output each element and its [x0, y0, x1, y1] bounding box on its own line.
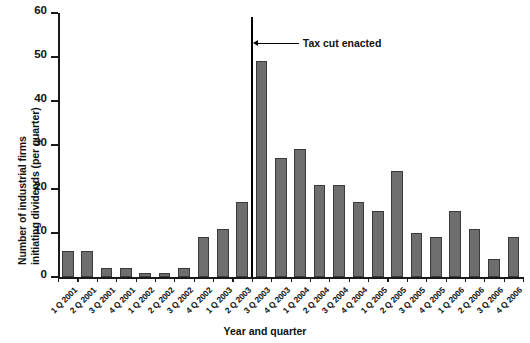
x-axis-tick	[116, 277, 117, 282]
x-axis-tick	[77, 277, 78, 282]
y-axis-tick-label-10: 10	[34, 224, 47, 236]
bar	[488, 259, 500, 277]
y-axis-line	[58, 13, 60, 277]
x-axis-tick	[174, 277, 175, 282]
bar	[449, 211, 461, 277]
tax-cut-annotation-label: Tax cut enacted	[303, 37, 382, 49]
bar	[353, 202, 365, 277]
y-axis-title: Number of industrial firms initiating di…	[0, 0, 34, 290]
bar	[198, 237, 210, 277]
bar	[81, 251, 93, 277]
bar	[469, 229, 481, 277]
x-axis-tick	[136, 277, 137, 282]
x-axis-tick	[291, 277, 292, 282]
x-axis-tick	[368, 277, 369, 282]
bar	[508, 237, 520, 277]
x-axis-tick	[194, 277, 195, 282]
y-axis-tick-label-0: 0	[41, 268, 47, 280]
bar	[62, 251, 74, 277]
x-axis-tick	[426, 277, 427, 282]
x-axis-tick	[504, 277, 505, 282]
x-axis-tick	[387, 277, 388, 282]
plot-area: 0102030405060 1 Q 20012 Q 20013 Q 20014 …	[58, 13, 523, 277]
x-axis-tick	[523, 277, 524, 282]
x-axis-tick	[232, 277, 233, 282]
x-axis-tick	[252, 277, 253, 282]
y-axis-tick-label-20: 20	[34, 180, 47, 192]
bar	[275, 158, 287, 277]
tax-cut-annotation-leader-line	[257, 43, 299, 44]
bar	[314, 185, 326, 277]
y-axis-tick-label-30: 30	[34, 136, 47, 148]
y-axis-tick-10: 10	[51, 232, 58, 234]
x-axis-tick	[271, 277, 272, 282]
y-axis-tick-label-40: 40	[34, 92, 47, 104]
y-axis-tick-label-50: 50	[34, 48, 47, 60]
x-axis-tick	[446, 277, 447, 282]
bar	[391, 171, 403, 277]
y-axis-tick-30: 30	[51, 144, 58, 146]
x-axis-tick	[329, 277, 330, 282]
bar	[101, 268, 113, 277]
bar	[139, 273, 151, 277]
bar	[159, 273, 171, 277]
y-axis-tick-label-60: 60	[34, 4, 47, 16]
x-axis-tick	[58, 277, 59, 282]
x-axis-tick	[155, 277, 156, 282]
bar	[411, 233, 423, 277]
x-axis-tick	[310, 277, 311, 282]
y-axis-tick-50: 50	[51, 56, 58, 58]
tax-cut-annotation-arrow-icon	[253, 40, 258, 46]
x-axis-tick	[349, 277, 350, 282]
bar	[294, 149, 306, 277]
y-axis-tick-0: 0	[51, 276, 58, 278]
bar	[120, 268, 132, 277]
tax-cut-event-line	[251, 17, 253, 277]
x-axis-tick	[213, 277, 214, 282]
y-axis-tick-60: 60	[51, 12, 58, 14]
x-axis-tick	[407, 277, 408, 282]
y-axis-title-line-1: Number of industrial firms	[16, 136, 28, 265]
bar	[217, 229, 229, 277]
bar	[333, 185, 345, 277]
x-axis-tick	[97, 277, 98, 282]
x-axis-tick	[465, 277, 466, 282]
bar	[256, 61, 268, 277]
bar	[372, 211, 384, 277]
y-axis-tick-20: 20	[51, 188, 58, 190]
y-axis-tick-40: 40	[51, 100, 58, 102]
x-axis-tick	[484, 277, 485, 282]
dividend-initiations-bar-chart: Number of industrial firms initiating di…	[0, 0, 530, 343]
bar	[236, 202, 248, 277]
bar	[430, 237, 442, 277]
x-axis-title: Year and quarter	[0, 325, 530, 337]
bar	[178, 268, 190, 277]
